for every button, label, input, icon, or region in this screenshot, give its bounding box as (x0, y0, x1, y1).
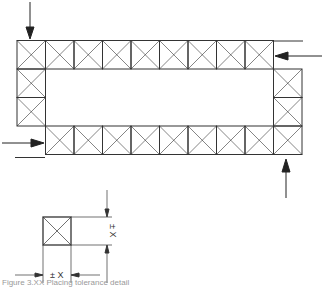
figure-caption: Figure 3.XX Placing tolerance detail (2, 278, 129, 287)
x-cell (160, 41, 189, 70)
x-cell (217, 41, 246, 70)
x-cell (17, 98, 46, 127)
x-cell (103, 126, 132, 155)
x-cell (245, 41, 274, 70)
arrow-right-icon (2, 139, 44, 147)
arrow-up-icon (282, 159, 290, 198)
ring-diagram: ± X ± X (0, 0, 327, 287)
x-cell (217, 126, 246, 155)
x-cell (188, 126, 217, 155)
x-cell (74, 126, 103, 155)
x-cell (245, 126, 274, 155)
x-cell (46, 126, 75, 155)
arrow-left-icon (275, 52, 322, 60)
x-cell (131, 126, 160, 155)
x-cell (131, 41, 160, 70)
x-cell (103, 41, 132, 70)
x-cell (17, 41, 46, 70)
x-cell (17, 69, 46, 98)
x-cell (46, 41, 75, 70)
x-cell (188, 41, 217, 70)
x-cell (274, 126, 303, 155)
x-cell (74, 41, 103, 70)
tolerance-detail (15, 190, 112, 283)
x-cell (274, 98, 303, 127)
arrow-down-icon (26, 2, 34, 39)
x-cell (274, 69, 303, 98)
x-cell (160, 126, 189, 155)
vertical-tolerance-label: ± X (108, 224, 118, 237)
